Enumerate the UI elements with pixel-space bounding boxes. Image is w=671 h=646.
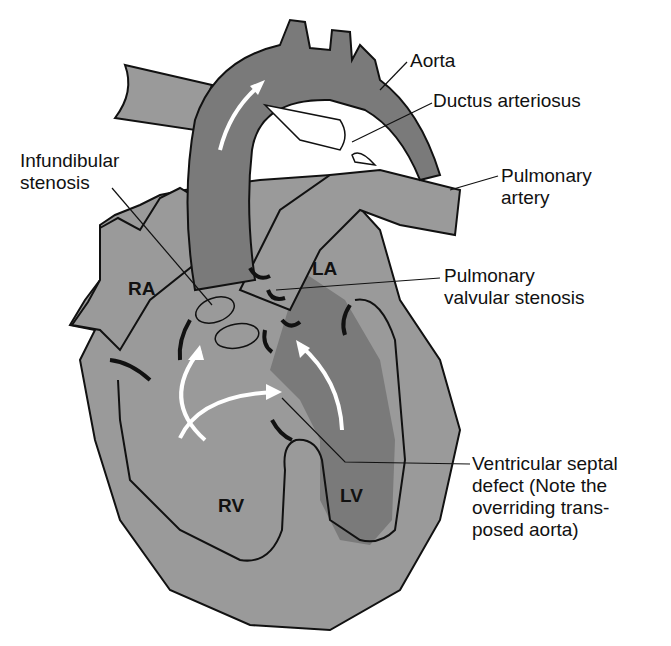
chamber-label-lv: LV: [340, 485, 363, 507]
chamber-label-ra: RA: [128, 278, 155, 300]
chamber-label-la: LA: [312, 258, 337, 280]
ductus-gap: [265, 105, 345, 150]
label-vsd: Ventricular septal defect (Note the over…: [472, 453, 618, 541]
label-aorta: Aorta: [410, 50, 455, 72]
label-ductus-arteriosus: Ductus arteriosus: [433, 90, 581, 112]
chamber-label-rv: RV: [218, 495, 244, 517]
label-pulmonary-artery: Pulmonary artery: [501, 165, 592, 209]
label-infundibular-stenosis: Infundibular stenosis: [20, 150, 119, 194]
leader-pulmonary-artery: [450, 176, 498, 190]
ductus-gap-2: [352, 153, 375, 165]
label-pulmonary-valvular-stenosis: Pulmonary valvular stenosis: [444, 265, 584, 309]
leader-aorta: [380, 62, 407, 90]
